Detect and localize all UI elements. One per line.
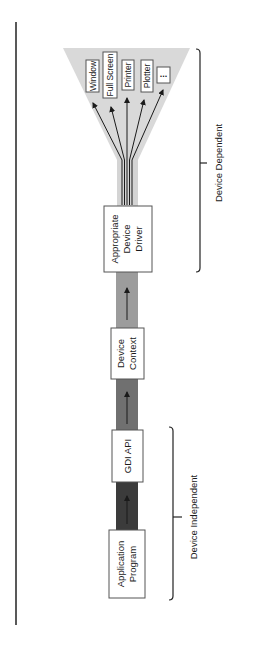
stage-application-program: Application Program: [109, 530, 145, 598]
svg-text:...: ...: [160, 69, 168, 79]
svg-text:Appropriate: Appropriate: [109, 214, 120, 263]
svg-text:Device: Device: [115, 339, 126, 368]
svg-text:Window: Window: [88, 60, 98, 91]
stage-gdi-api: GDI API: [112, 430, 143, 482]
svg-text:Program: Program: [127, 546, 138, 583]
stage-device-context: Device Context: [111, 328, 144, 379]
output-more: ...: [157, 67, 170, 83]
stage-device-driver: Appropriate Device Driver: [104, 206, 152, 272]
output-window: Window: [86, 60, 99, 92]
bracket-device-independent: Device Independent: [169, 427, 199, 600]
output-printer: Printer: [122, 60, 134, 90]
svg-text:Device Independent: Device Independent: [188, 474, 199, 559]
bracket-device-dependent: Device Dependent: [196, 49, 224, 272]
svg-text:Device Dependent: Device Dependent: [213, 124, 224, 203]
svg-text:Plotter: Plotter: [142, 64, 152, 89]
output-full-screen: Full Screen: [103, 52, 117, 98]
output-plotter: Plotter: [141, 60, 153, 92]
svg-text:Printer: Printer: [123, 62, 133, 87]
svg-text:Driver: Driver: [133, 226, 144, 251]
gdi-architecture-diagram: Window Full Screen Printer Plotter ... A…: [0, 0, 260, 651]
svg-text:Full Screen: Full Screen: [105, 53, 115, 96]
svg-text:Device: Device: [121, 224, 132, 253]
svg-text:Application: Application: [115, 541, 126, 587]
svg-text:Context: Context: [127, 337, 138, 370]
svg-text:GDI API: GDI API: [122, 439, 133, 473]
